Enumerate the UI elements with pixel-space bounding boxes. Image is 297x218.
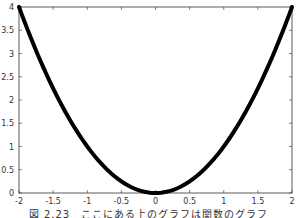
y-tick-label: 1 — [9, 143, 14, 152]
y-tick-label: 1.5 — [1, 119, 14, 128]
y-tick-label: 2.5 — [1, 73, 14, 82]
figure-caption: 図 2.23 ここにある上のグラフは関数のグラフ — [0, 206, 297, 218]
x-tick-label: 2 — [289, 197, 294, 205]
x-tick-label: -2 — [15, 197, 23, 205]
x-tick-label: 1 — [221, 197, 226, 205]
x-tick-label: -1 — [83, 197, 91, 205]
x-tick-label: 1.5 — [252, 197, 265, 205]
x-tick-label: 0 — [153, 197, 158, 205]
y-tick-label: 0.5 — [1, 166, 14, 175]
y-tick-label: 4 — [9, 3, 14, 12]
x-tick-label: 0.5 — [183, 197, 196, 205]
y-tick-label: 2 — [9, 96, 14, 105]
y-tick-label: 0 — [9, 189, 14, 198]
x-tick-label: -0.5 — [114, 197, 130, 205]
y-tick-label: 3 — [9, 50, 14, 59]
y-tick-label: 3.5 — [1, 26, 14, 35]
x-tick-label: -1.5 — [45, 197, 61, 205]
parabola-chart: -2-1.5-1-0.500.511.52 00.511.522.533.54 — [0, 0, 297, 205]
